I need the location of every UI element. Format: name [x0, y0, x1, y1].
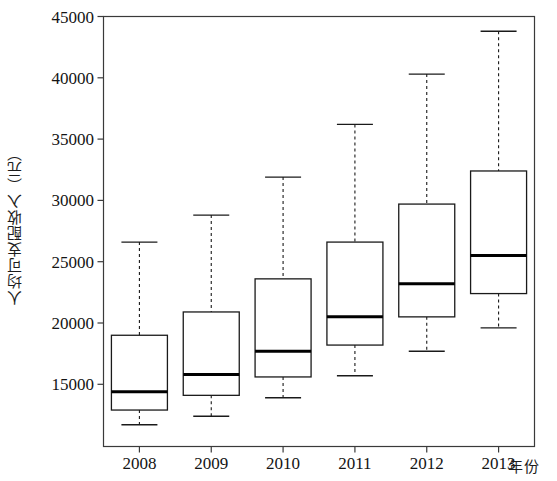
x-axis-tick-label: 2010 — [266, 454, 300, 474]
box-iqr — [183, 312, 239, 395]
plot-area — [0, 0, 557, 481]
x-axis-tick-label: 2012 — [410, 454, 444, 474]
box-iqr — [327, 242, 383, 345]
x-axis-tick-label: 2011 — [338, 454, 371, 474]
boxplot-figure: 人均可支配收入（元） 15000200002500030000350004000… — [0, 0, 557, 481]
box-iqr — [471, 171, 527, 294]
box-iqr — [255, 279, 311, 377]
x-axis-tick-label: 2008 — [122, 454, 156, 474]
box-iqr — [399, 204, 455, 317]
plot-frame — [104, 17, 535, 447]
x-axis-title: 年份 — [508, 455, 540, 476]
x-axis-ticks — [139, 447, 498, 453]
x-axis-tick-label: 2009 — [194, 454, 228, 474]
y-axis-ticks — [98, 17, 104, 385]
box-iqr — [111, 335, 167, 410]
